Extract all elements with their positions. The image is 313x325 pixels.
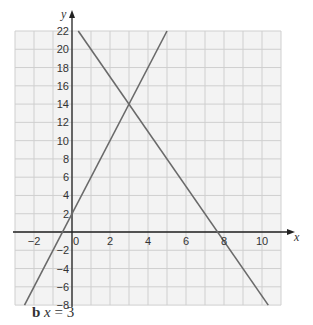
caption-equation: = 3 — [51, 304, 74, 320]
y-tick-label: 10 — [57, 135, 69, 147]
x-axis-label: x — [293, 230, 300, 244]
x-tick-label: 8 — [221, 235, 227, 247]
x-tick-label: 4 — [145, 235, 151, 247]
y-tick-label: 6 — [63, 171, 69, 183]
y-tick-label: 4 — [63, 189, 69, 201]
y-tick-label: 2 — [63, 208, 69, 220]
caption-variable: x — [44, 304, 51, 320]
y-tick-label: −6 — [56, 281, 69, 293]
y-tick-label: 12 — [57, 116, 69, 128]
y-tick-label: −2 — [56, 244, 69, 256]
y-tick-label: 14 — [57, 98, 69, 110]
x-tick-label: −2 — [28, 235, 41, 247]
y-axis-arrow-icon — [69, 10, 75, 18]
y-tick-label: 20 — [57, 43, 69, 55]
caption: b x = 3 — [32, 304, 74, 321]
caption-part: b — [32, 304, 40, 320]
chart: xy −20246810−8−6−4−2246810121416182022 — [0, 0, 313, 325]
y-tick-label: 16 — [57, 80, 69, 92]
y-tick-label: 8 — [63, 153, 69, 165]
x-tick-label: 0 — [73, 235, 79, 247]
x-tick-label: 6 — [183, 235, 189, 247]
y-tick-label: 22 — [57, 25, 69, 37]
x-tick-label: 10 — [256, 235, 268, 247]
y-tick-label: −4 — [56, 263, 69, 275]
x-tick-label: 2 — [107, 235, 113, 247]
y-tick-label: 18 — [57, 62, 69, 74]
y-axis-label: y — [60, 7, 67, 21]
